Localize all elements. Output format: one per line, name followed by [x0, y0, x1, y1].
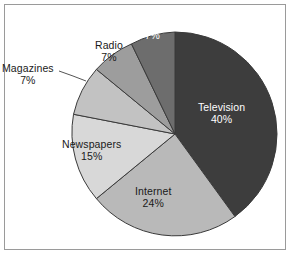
slice-label-outdoor-value: 7% — [133, 29, 172, 41]
slice-label-television-name: Television — [198, 101, 245, 113]
slice-label-outdoor: Outdoor 7% — [133, 17, 172, 42]
slice-label-newspapers-name: Newspapers — [62, 138, 121, 150]
slice-label-newspapers-value: 15% — [62, 150, 121, 162]
pie-chart-figure: Television 40% Internet 24% Newspapers 1… — [0, 0, 296, 259]
slice-label-newspapers: Newspapers 15% — [62, 138, 121, 163]
slice-label-television-value: 40% — [198, 113, 245, 125]
magazines-leader-line — [59, 71, 86, 81]
slice-label-magazines: Magazines 7% — [2, 62, 54, 87]
slice-label-radio: Radio 7% — [95, 39, 123, 64]
slice-label-internet-name: Internet — [135, 185, 171, 197]
slice-label-radio-value: 7% — [95, 51, 123, 63]
slice-label-outdoor-name: Outdoor — [133, 17, 172, 29]
slice-label-television: Television 40% — [198, 101, 245, 126]
slice-label-magazines-name: Magazines — [2, 62, 54, 74]
slice-label-magazines-value: 7% — [2, 74, 54, 86]
slice-label-internet: Internet 24% — [135, 185, 171, 210]
slice-label-radio-name: Radio — [95, 39, 123, 51]
slice-label-internet-value: 24% — [135, 197, 171, 209]
